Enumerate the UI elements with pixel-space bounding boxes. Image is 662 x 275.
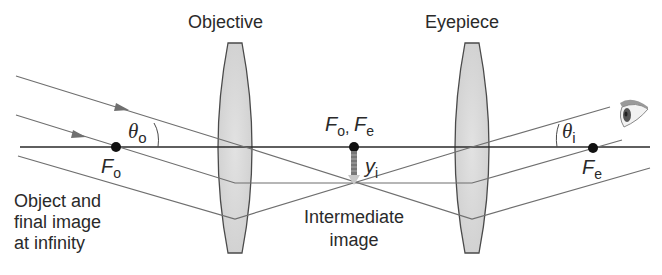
eyepiece-label: Eyepiece [425, 13, 499, 31]
focal-point-fe-right [588, 143, 598, 153]
theta-o-label: θo [128, 121, 147, 142]
eyepiece-lens [455, 43, 489, 253]
eye-icon [620, 100, 648, 127]
focal-point-fo-left [111, 142, 121, 152]
ray-arrow-icon [114, 103, 129, 111]
theta-o-arc [154, 123, 159, 147]
yi-label: yi [365, 156, 378, 176]
objective-label: Objective [188, 13, 263, 31]
focal-point-shared [349, 142, 359, 152]
theta-i-arc [556, 124, 559, 147]
fo-fe-shared-label: Fo, Fe [325, 114, 374, 134]
fo-left-label: Fo [101, 156, 121, 176]
theta-i-label: θi [562, 121, 576, 142]
fe-right-label: Fe [582, 157, 602, 177]
object-caption: Object and final image at infinity [14, 191, 101, 254]
ray-arrow-icon [71, 130, 86, 138]
intermediate-image-caption: Intermediate image [290, 207, 418, 251]
